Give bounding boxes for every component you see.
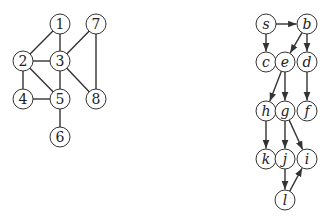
node-i: i: [297, 149, 317, 169]
node-6: 6: [50, 127, 70, 147]
node-label: h: [261, 103, 270, 119]
node-7: 7: [86, 14, 106, 34]
node-label: 8: [92, 91, 101, 107]
arrow-l-i: [290, 168, 302, 191]
node-g: g: [275, 101, 295, 121]
node-l: l: [275, 190, 295, 210]
node-label: s: [262, 16, 269, 32]
node-label: b: [303, 16, 312, 32]
edge-3-8: [67, 68, 89, 91]
node-label: 1: [56, 16, 65, 32]
directed-graph: sbcedhgfkjil: [256, 14, 317, 210]
node-e: e: [275, 52, 295, 72]
node-c: c: [256, 52, 276, 72]
node-f: f: [297, 101, 317, 121]
node-label: i: [305, 151, 309, 167]
node-d: d: [297, 52, 317, 72]
node-h: h: [256, 101, 276, 121]
edge-2-5: [30, 68, 53, 92]
edge-3-7: [67, 31, 89, 54]
undirected-graph: 12345678: [13, 14, 106, 147]
node-label: 6: [56, 129, 65, 145]
node-1: 1: [50, 14, 70, 34]
node-label: 7: [92, 16, 101, 32]
node-8: 8: [86, 89, 106, 109]
arrow-b-e: [290, 33, 302, 53]
node-label: k: [262, 151, 270, 167]
node-label: d: [303, 54, 312, 70]
node-label: l: [283, 192, 287, 208]
node-5: 5: [50, 89, 70, 109]
node-k: k: [256, 149, 276, 169]
edge-1-2: [30, 31, 53, 54]
node-b: b: [297, 14, 317, 34]
node-label: 3: [56, 53, 65, 69]
node-label: 4: [19, 91, 28, 107]
arrow-e-h: [270, 71, 282, 101]
node-label: g: [281, 103, 290, 119]
node-4: 4: [13, 89, 33, 109]
node-label: 2: [19, 53, 28, 69]
arrow-g-i: [289, 120, 302, 149]
graph-diagram: 12345678sbcedhgfkjil: [0, 0, 327, 218]
node-2: 2: [13, 51, 33, 71]
node-label: e: [281, 54, 289, 70]
node-label: 5: [56, 91, 65, 107]
node-3: 3: [50, 51, 70, 71]
node-label: c: [262, 54, 270, 70]
node-s: s: [256, 14, 276, 34]
node-j: j: [275, 149, 295, 169]
